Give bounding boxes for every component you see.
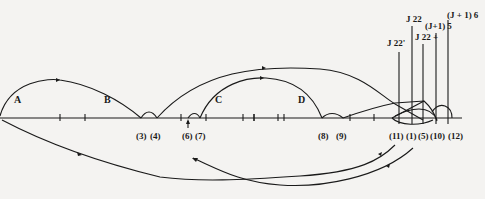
marker-label: (J+1) 5 — [425, 21, 452, 31]
arc-outer — [157, 68, 395, 118]
point-label: (5) — [418, 131, 429, 141]
marker-label: J 22 + — [415, 32, 438, 42]
segment-label: B — [104, 94, 111, 105]
return-curve-1 — [2, 120, 395, 180]
point-label: (4) — [150, 131, 161, 141]
diagram-lines — [0, 0, 485, 199]
point-label: (7) — [195, 131, 206, 141]
point-label: (8) — [318, 131, 329, 141]
marker-label: (J + 1) 6 — [447, 10, 478, 20]
point-label: (12) — [448, 131, 463, 141]
point-label: (9) — [336, 131, 347, 141]
point-label: (6) — [182, 131, 193, 141]
point-label: (1) — [406, 131, 417, 141]
segment-label: C — [215, 94, 222, 105]
marker-label: J 22' — [387, 38, 405, 48]
marker-label: J 22 — [406, 14, 422, 24]
point-label: (3) — [136, 131, 147, 141]
point-label: (10) — [430, 131, 445, 141]
segment-label: D — [298, 94, 305, 105]
timeline-diagram: A B C D (3) (4) (6) (7) (8) (9) (11) (1)… — [0, 0, 485, 199]
segment-label: A — [14, 94, 21, 105]
point-label: (11) — [389, 131, 404, 141]
